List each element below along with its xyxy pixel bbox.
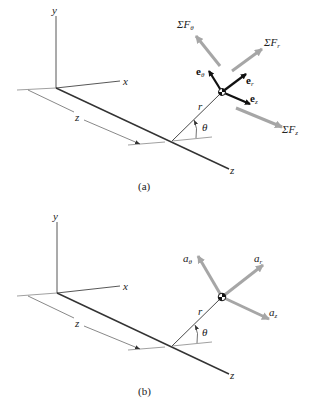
z-dimension-line — [84, 326, 140, 349]
r-label: r — [198, 305, 203, 317]
e-theta-label: eθ — [196, 65, 205, 79]
a-r-arrow — [222, 265, 263, 297]
x-axis — [56, 81, 120, 88]
e-z-arrow — [222, 92, 250, 104]
dimension-tick-right — [128, 347, 165, 350]
z-axis-label: z — [229, 369, 235, 381]
theta-arc — [195, 325, 198, 343]
sum-f-theta-arrow — [196, 36, 220, 66]
e-z-label: ez — [250, 92, 258, 106]
z-dimension-label: z — [74, 317, 80, 329]
dimension-tick-left — [17, 293, 57, 296]
sum-f-r-arrow — [232, 49, 262, 71]
a-z-label: az — [269, 306, 278, 320]
y-axis-label: y — [52, 210, 58, 222]
panel-a-caption: (a) — [138, 180, 151, 193]
a-r-label: ar — [254, 252, 263, 266]
a-z-arrow — [222, 297, 269, 319]
theta-arc — [194, 120, 197, 138]
theta-label: θ — [202, 121, 208, 133]
r-line — [172, 297, 222, 346]
sum-f-theta-label: ΣFθ — [176, 18, 194, 32]
dimension-tick-right — [128, 142, 165, 145]
y-axis-label: y — [51, 4, 57, 16]
r-label: r — [198, 100, 203, 112]
a-theta-arrow — [198, 256, 222, 297]
sum-f-r-label: ΣFr — [263, 36, 280, 50]
a-theta-label: aθ — [183, 252, 193, 266]
panel-a: y x z z r θ eθ er ez ΣFθ — [17, 4, 298, 193]
x-axis-label: x — [122, 280, 128, 292]
e-r-label: er — [246, 74, 254, 88]
z-dimension-line — [28, 296, 74, 318]
x-axis-label: x — [122, 75, 128, 87]
dimension-tick-left — [17, 88, 56, 90]
sum-f-z-arrow — [236, 108, 282, 127]
panel-b-caption: (b) — [138, 385, 151, 398]
x-axis — [57, 286, 120, 293]
theta-label: θ — [202, 326, 208, 338]
cylindrical-coordinates-figure: y x z z r θ eθ er ez ΣFθ — [0, 0, 309, 409]
sum-f-z-label: ΣFz — [281, 123, 298, 137]
particle — [218, 293, 226, 301]
particle — [219, 89, 226, 96]
theta-reference-line — [172, 137, 212, 141]
panel-b: y x z z r θ aθ ar az (b) — [17, 210, 278, 398]
z-dimension-label: z — [74, 111, 80, 123]
e-r-arrow — [222, 74, 246, 92]
z-axis-label: z — [229, 164, 235, 176]
theta-reference-line — [172, 342, 212, 346]
